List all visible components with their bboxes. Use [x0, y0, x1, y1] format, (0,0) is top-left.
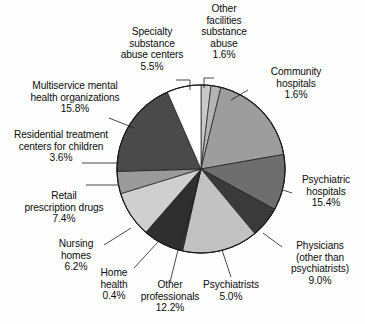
- label-physicians-pct: 9.0%: [276, 275, 364, 287]
- leader-line-other-professionals: [170, 250, 178, 282]
- label-nursing-homes-line2: homes: [61, 250, 91, 261]
- pie-chart-figure: Other facilities substance abuse 1.6% Co…: [0, 0, 365, 324]
- leader-line-home-health: [134, 242, 158, 268]
- label-retail-drugs-line2: prescription drugs: [24, 202, 103, 213]
- label-community-hospitals-line2: hospitals: [276, 78, 315, 89]
- label-specialty-substance-line3: abuse centers: [121, 49, 184, 60]
- label-other-facilities-line3: substance: [201, 26, 247, 37]
- label-residential-treatment-line1: Residential treatment: [14, 129, 108, 140]
- label-other-professionals: Other professionals 12.2%: [131, 279, 209, 314]
- label-nursing-homes-pct: 6.2%: [48, 261, 104, 273]
- label-residential-treatment-pct: 3.6%: [2, 152, 120, 164]
- label-home-health-line2: health: [100, 279, 127, 290]
- label-specialty-substance-line2: substance: [129, 38, 175, 49]
- label-other-facilities-line1: Other: [212, 3, 237, 14]
- leader-line-psychiatrists: [222, 250, 231, 277]
- label-nursing-homes-line1: Nursing: [59, 238, 93, 249]
- label-psychiatric-hospitals-line2: hospitals: [306, 186, 345, 197]
- label-psychiatric-hospitals: Psychiatric hospitals 15.4%: [290, 174, 362, 209]
- label-psychiatric-hospitals-line1: Psychiatric: [302, 174, 350, 185]
- label-other-facilities-line2: facilities: [206, 15, 241, 26]
- label-physicians-line2: (other than: [296, 252, 344, 263]
- label-home-health-pct: 0.4%: [90, 290, 138, 302]
- label-specialty-substance-pct: 5.5%: [104, 61, 200, 73]
- label-retail-drugs-pct: 7.4%: [12, 213, 116, 225]
- label-psychiatric-hospitals-pct: 15.4%: [290, 197, 362, 209]
- label-physicians-line3: psychiatrists): [291, 263, 349, 274]
- label-psychiatrists-line1: Psychiatrists: [203, 279, 259, 290]
- label-multiservice-line2: health organizations: [30, 92, 119, 103]
- pie-slices-group: [117, 85, 285, 253]
- label-community-hospitals-pct: 1.6%: [252, 89, 340, 101]
- label-other-professionals-line1: Other: [158, 279, 183, 290]
- label-physicians: Physicians (other than psychiatrists) 9.…: [276, 240, 364, 286]
- label-other-facilities-line4: abuse: [210, 38, 237, 49]
- label-residential-treatment: Residential treatment centers for childr…: [2, 129, 120, 164]
- label-residential-treatment-line2: centers for children: [19, 141, 104, 152]
- label-nursing-homes: Nursing homes 6.2%: [48, 238, 104, 273]
- label-retail-drugs-line1: Retail: [51, 190, 76, 201]
- label-multiservice-line1: Multiservice mental: [32, 80, 117, 91]
- label-physicians-line1: Physicians: [296, 240, 344, 251]
- label-community-hospitals: Community hospitals 1.6%: [252, 66, 340, 101]
- label-home-health-line1: Home: [101, 267, 128, 278]
- label-multiservice-pct: 15.8%: [18, 103, 132, 115]
- label-other-professionals-line2: professionals: [141, 291, 200, 302]
- label-other-professionals-pct: 12.2%: [131, 302, 209, 314]
- label-retail-drugs: Retail prescription drugs 7.4%: [12, 190, 116, 225]
- label-multiservice: Multiservice mental health organizations…: [18, 80, 132, 115]
- label-specialty-substance: Specialty substance abuse centers 5.5%: [104, 26, 200, 72]
- leader-line-nursing-homes: [104, 228, 131, 245]
- label-specialty-substance-line1: Specialty: [132, 26, 172, 37]
- label-community-hospitals-line1: Community: [271, 66, 322, 77]
